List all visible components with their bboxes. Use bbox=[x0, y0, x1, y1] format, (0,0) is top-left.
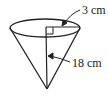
height-line bbox=[46, 27, 47, 89]
cone-shape bbox=[10, 19, 80, 89]
height-arrow bbox=[48, 53, 70, 62]
radius-label: 3 cm bbox=[82, 3, 106, 17]
cone-base-ellipse bbox=[10, 19, 80, 37]
cone-diagram: 3 cm 18 cm bbox=[0, 0, 108, 97]
radius-arrow bbox=[62, 10, 80, 26]
right-angle-mark bbox=[46, 27, 53, 34]
height-label: 18 cm bbox=[72, 56, 102, 70]
